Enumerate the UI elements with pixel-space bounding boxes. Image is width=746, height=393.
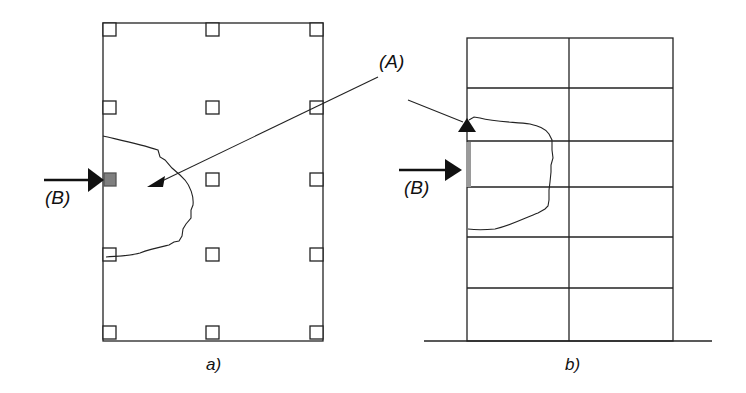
label-a: (A) xyxy=(379,52,404,71)
removed-column-square xyxy=(104,173,116,186)
arrow-a-head-left xyxy=(147,176,165,187)
caption-a: a) xyxy=(206,356,221,373)
column-squares xyxy=(103,23,323,339)
removed-column-segment xyxy=(466,142,471,187)
arrow-a-line-right xyxy=(408,100,463,122)
affected-region-curve-a xyxy=(103,136,193,257)
frame-outline xyxy=(467,38,673,341)
arrow-a-line-left xyxy=(162,77,378,181)
caption-b: b) xyxy=(565,356,580,373)
arrow-a-head-right xyxy=(458,118,476,132)
affected-region-curve-b xyxy=(468,117,553,230)
panel-b xyxy=(408,38,712,341)
label-b-right: (B) xyxy=(404,178,429,197)
diagram-canvas xyxy=(0,0,746,393)
arrow-b-head-right xyxy=(445,159,462,181)
arrow-b-head-left xyxy=(88,168,104,192)
panel-a xyxy=(103,23,378,341)
label-b-left: (B) xyxy=(45,188,70,207)
